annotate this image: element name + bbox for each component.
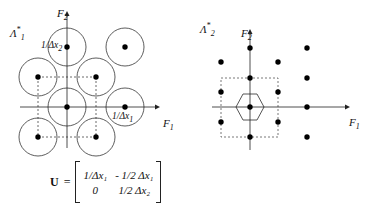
axis-letter: F: [241, 27, 248, 39]
equals-sign: =: [64, 175, 71, 190]
left-axis-x-label: F1: [163, 118, 174, 129]
lattice-subscript: 1: [21, 33, 25, 42]
matrix-cells: 1/Δx₁ - 1/2 Δx₁ 0 1/2 Δx₂: [80, 169, 156, 196]
left-axis-y-label: F2: [57, 8, 68, 19]
tick-text: 1/Δx: [41, 40, 58, 50]
axis-subscript: 1: [356, 122, 360, 131]
right-bracket: [156, 161, 161, 203]
axis-subscript: 1: [170, 123, 174, 132]
tick-subscript: 1: [129, 115, 133, 124]
matrix-cell: 0: [83, 184, 107, 196]
axis-subscript: 2: [248, 33, 252, 42]
tick-text: 1/Δx: [112, 111, 129, 121]
matrix-symbol: U: [50, 175, 59, 190]
axis-letter: F: [163, 117, 170, 129]
matrix-cell: - 1/2 Δx₁: [115, 169, 153, 181]
lattice-symbol: Λ: [10, 27, 17, 39]
right-lattice-diagram: [212, 29, 350, 150]
left-lattice-diagram: [19, 11, 160, 156]
right-axis-x-label: F1: [349, 117, 360, 128]
right-lattice-label: Λ*2: [200, 24, 215, 35]
matrix-cell: 1/Δx₁: [83, 169, 107, 181]
axis-letter: F: [57, 7, 64, 19]
axis-letter: F: [349, 116, 356, 128]
axis-subscript: 2: [64, 13, 68, 22]
right-axis-y-label: F2: [241, 28, 252, 39]
left-lattice-label: Λ*1: [10, 28, 25, 39]
right-lattice-points: [218, 45, 309, 139]
lattice-symbol: Λ: [200, 23, 207, 35]
lattice-subscript: 2: [211, 29, 215, 38]
left-tick-y-label: 1/Δx2: [41, 41, 62, 51]
tick-subscript: 2: [58, 44, 62, 53]
left-tick-x-label: 1/Δx1: [112, 112, 133, 122]
matrix-equation: U = 1/Δx₁ - 1/2 Δx₁ 0 1/2 Δx₂: [50, 161, 161, 203]
matrix-body: 1/Δx₁ - 1/2 Δx₁ 0 1/2 Δx₂: [75, 161, 161, 203]
matrix-cell: 1/2 Δx₂: [115, 184, 153, 196]
